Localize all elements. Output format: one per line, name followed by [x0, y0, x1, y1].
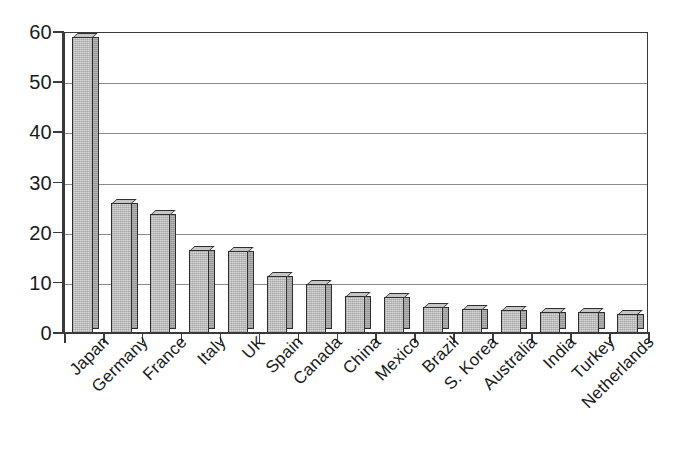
x-axis-category-label: Italy	[194, 333, 229, 368]
y-axis-tick-label: 60	[29, 22, 52, 42]
bar-front-face	[423, 307, 443, 333]
bar-side-face	[248, 251, 254, 329]
bar-front-face	[111, 203, 131, 333]
bar-side-face	[209, 250, 215, 329]
y-axis-tick-label: 30	[29, 173, 52, 193]
bar-front-face	[578, 312, 598, 333]
bar-side-face	[521, 310, 527, 329]
bar-front-face	[345, 296, 365, 333]
y-axis-tick-mark	[53, 31, 63, 33]
bar	[111, 203, 131, 333]
bar-front-face	[617, 314, 637, 333]
bar-front-face	[189, 250, 209, 333]
bar	[384, 297, 404, 333]
bar-side-face	[132, 203, 138, 329]
bar	[578, 312, 598, 333]
y-axis-tick-mark	[53, 182, 63, 184]
bar-front-face	[150, 214, 170, 333]
bar-side-face	[365, 296, 371, 329]
y-axis-tick-label: 40	[29, 122, 52, 142]
bar-side-face	[170, 214, 176, 329]
bar	[306, 284, 326, 333]
bars-container	[64, 32, 648, 333]
y-axis-tick-labels: 0102030405060	[0, 0, 52, 461]
bar-side-face	[482, 309, 488, 329]
bar	[72, 37, 92, 333]
bar-front-face	[228, 251, 248, 333]
bar-side-face	[638, 314, 644, 329]
bar-side-face	[287, 276, 293, 329]
bar	[267, 276, 287, 333]
y-axis-tick-label: 50	[29, 72, 52, 92]
bar	[540, 312, 560, 333]
bar	[228, 251, 248, 333]
bar-side-face	[93, 37, 99, 329]
y-axis-tick-mark	[53, 131, 63, 133]
bar	[189, 250, 209, 333]
x-axis-category-label: UK	[239, 333, 268, 362]
y-axis-tick-label: 10	[29, 273, 52, 293]
bar	[501, 310, 521, 333]
y-axis-tick-mark	[53, 81, 63, 83]
bar	[423, 307, 443, 333]
y-axis-tick-mark	[53, 232, 63, 234]
x-axis-category-label-text: UK	[239, 333, 268, 362]
bar-side-face	[560, 312, 566, 329]
bar-front-face	[72, 37, 92, 333]
bar	[617, 314, 637, 333]
bar-side-face	[404, 297, 410, 329]
bar	[462, 309, 482, 333]
bar-side-face	[326, 284, 332, 329]
y-axis-tick-label: 0	[41, 323, 52, 343]
bar-front-face	[462, 309, 482, 333]
x-axis-category-label-text: Italy	[194, 333, 229, 368]
bar	[150, 214, 170, 333]
bar-side-face	[599, 312, 605, 329]
x-axis-category-labels: JapanGermanyFranceItalyUKSpainCanadaChin…	[64, 333, 674, 461]
bar-chart: 0102030405060 JapanGermanyFranceItalyUKS…	[0, 0, 678, 461]
y-axis-tick-label: 20	[29, 223, 52, 243]
bar	[345, 296, 365, 333]
bar-front-face	[306, 284, 326, 333]
y-axis-tick-mark	[53, 282, 63, 284]
bar-front-face	[501, 310, 521, 333]
bar-side-face	[443, 307, 449, 329]
bar-front-face	[384, 297, 404, 333]
bar-front-face	[267, 276, 287, 333]
bar-front-face	[540, 312, 560, 333]
